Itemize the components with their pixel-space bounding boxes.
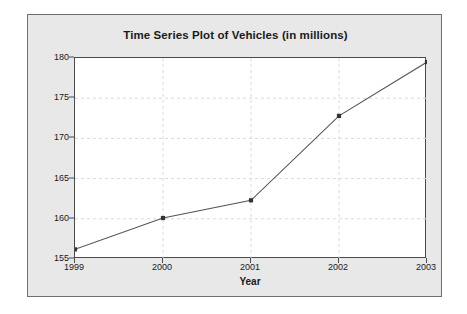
x-axis-tick-mark: [162, 258, 163, 263]
data-point-marker: [75, 247, 77, 251]
x-axis-title: Year: [74, 276, 426, 287]
y-axis-tick-label: 165: [54, 173, 69, 183]
vertical-gridlines: [163, 58, 339, 259]
y-axis-tick-label: 160: [54, 213, 69, 223]
chart-title: Time Series Plot of Vehicles (in million…: [28, 29, 443, 41]
data-point-marker: [161, 216, 165, 220]
x-axis-tick-label: 1999: [64, 262, 84, 272]
y-axis-tick-label: 175: [54, 92, 69, 102]
data-point-marker: [337, 114, 341, 118]
x-axis-tick-label: 2003: [416, 262, 436, 272]
data-point-marker: [425, 60, 427, 64]
x-axis-tick-label: 2001: [240, 262, 260, 272]
x-axis-tick-mark: [338, 258, 339, 263]
y-axis-tick-label: 170: [54, 132, 69, 142]
x-axis-tick-mark: [426, 258, 427, 263]
x-axis-tick-mark: [74, 258, 75, 263]
y-axis-tick-labels: 155160165170175180: [28, 57, 69, 258]
chart-figure: Time Series Plot of Vehicles (in million…: [0, 0, 467, 314]
y-axis-tick-label: 180: [54, 52, 69, 62]
chart-panel: Time Series Plot of Vehicles (in million…: [27, 14, 442, 297]
data-point-marker: [249, 198, 253, 202]
x-axis-tick-mark: [250, 258, 251, 263]
x-axis-tick-labels: 19992000200120022003: [74, 262, 426, 276]
plot-area: [74, 57, 426, 258]
x-axis-tick-label: 2000: [152, 262, 172, 272]
x-axis-tick-label: 2002: [328, 262, 348, 272]
line-chart-svg: [75, 58, 427, 259]
